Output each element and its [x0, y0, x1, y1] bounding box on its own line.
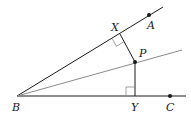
point-a	[147, 13, 151, 17]
point-c	[168, 94, 172, 98]
right-angle-mark-y	[126, 87, 135, 96]
label-a: A	[146, 19, 155, 32]
point-p	[133, 60, 137, 64]
perpendicular-px	[120, 34, 135, 62]
label-p: P	[138, 47, 147, 60]
label-c: C	[166, 101, 175, 114]
label-x: X	[110, 21, 120, 34]
label-y: Y	[131, 101, 140, 114]
angle-bisector	[17, 50, 182, 96]
right-angle-mark-x	[112, 39, 124, 47]
geometry-diagram: A B C P X Y	[0, 0, 191, 117]
label-b: B	[11, 101, 20, 114]
